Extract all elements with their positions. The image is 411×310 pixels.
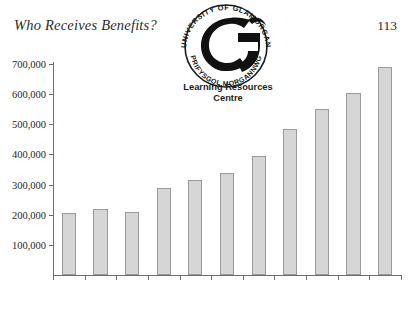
bar [157, 188, 171, 275]
bar [315, 109, 329, 275]
x-tick-mark [306, 275, 307, 280]
x-tick-mark [53, 275, 54, 280]
x-tick-mark [180, 275, 181, 280]
bar [125, 212, 139, 275]
bar [346, 93, 360, 275]
x-tick-mark [369, 275, 370, 280]
x-tick-mark [401, 275, 402, 280]
y-tick-label: 500,000 [12, 119, 46, 130]
bar [62, 213, 76, 275]
benefits-bar-chart: 100,000200,000300,000400,000500,000600,0… [0, 0, 411, 310]
bar [252, 156, 266, 275]
x-tick-mark [148, 275, 149, 280]
y-tick-label: 400,000 [12, 149, 46, 160]
plot-area: 100,000200,000300,000400,000500,000600,0… [53, 64, 401, 275]
x-tick-mark [274, 275, 275, 280]
bar [220, 173, 234, 275]
x-axis-line [53, 275, 401, 276]
bar [188, 180, 202, 275]
y-tick-label: 100,000 [12, 239, 46, 250]
bar [283, 129, 297, 275]
bar [93, 209, 107, 275]
x-tick-mark [211, 275, 212, 280]
y-tick-label: 200,000 [12, 209, 46, 220]
y-tick-label: 700,000 [12, 59, 46, 70]
bar-series [53, 64, 401, 275]
x-tick-mark [116, 275, 117, 280]
x-tick-mark [243, 275, 244, 280]
y-tick-label: 600,000 [12, 89, 46, 100]
bar [378, 67, 392, 275]
y-tick-label: 300,000 [12, 179, 46, 190]
x-tick-mark [338, 275, 339, 280]
book-page: Who Receives Benefits? 113 UNIVERSITY OF… [0, 0, 411, 310]
x-tick-mark [85, 275, 86, 280]
